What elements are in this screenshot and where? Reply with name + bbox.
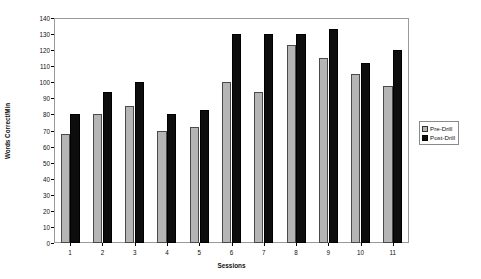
x-axis-tick-mark — [232, 243, 233, 246]
bar-group — [248, 18, 280, 243]
x-axis-tick-mark — [296, 243, 297, 246]
bar-pre-drill — [254, 92, 263, 243]
chart-legend: Pre-Drill Post-Drill — [419, 121, 459, 145]
legend-swatch-post-drill — [422, 135, 428, 141]
x-axis-tick-label: 4 — [165, 249, 169, 256]
bar-group — [54, 18, 86, 243]
y-axis-tick-mark — [51, 50, 54, 51]
x-axis-tick-label: 8 — [294, 249, 298, 256]
bar-group — [86, 18, 118, 243]
legend-label-post-drill: Post-Drill — [430, 133, 455, 142]
bar-group — [151, 18, 183, 243]
x-axis-tick-mark — [393, 243, 394, 246]
bar-post-drill — [103, 92, 112, 243]
bar-group — [215, 18, 247, 243]
y-axis-tick-mark — [51, 66, 54, 67]
legend-swatch-pre-drill — [422, 126, 428, 132]
bar-group — [119, 18, 151, 243]
y-axis-tick-label: 20 — [20, 207, 50, 214]
y-axis-tick-mark — [51, 114, 54, 115]
y-axis-tick-mark — [51, 131, 54, 132]
bar-chart: Words Correct/Min 0102030405060708090100… — [0, 0, 481, 279]
bar-post-drill — [393, 50, 402, 243]
x-axis-tick-mark — [135, 243, 136, 246]
bar-pre-drill — [287, 45, 296, 243]
bar-post-drill — [361, 63, 370, 243]
y-axis-tick-labels: 0102030405060708090100110120130140 — [20, 0, 50, 279]
y-axis-tick-label: 120 — [20, 47, 50, 54]
x-axis-tick-label: 9 — [327, 249, 331, 256]
y-axis-tick-label: 90 — [20, 95, 50, 102]
x-axis-tick-label: 1 — [68, 249, 72, 256]
bar-pre-drill — [61, 134, 70, 243]
y-axis-tick-mark — [51, 227, 54, 228]
bar-pre-drill — [93, 114, 102, 243]
y-axis-tick-label: 80 — [20, 111, 50, 118]
bar-pre-drill — [125, 106, 134, 243]
bar-post-drill — [200, 110, 209, 243]
legend-label-pre-drill: Pre-Drill — [430, 124, 452, 133]
bar-group — [183, 18, 215, 243]
bar-pre-drill — [383, 86, 392, 244]
y-axis-tick-mark — [51, 211, 54, 212]
bar-group — [280, 18, 312, 243]
bar-pre-drill — [222, 82, 231, 243]
x-axis-tick-mark — [70, 243, 71, 246]
bar-pre-drill — [190, 127, 199, 243]
y-axis-tick-label: 40 — [20, 175, 50, 182]
y-axis-tick-mark — [51, 98, 54, 99]
x-axis-title: Sessions — [54, 262, 409, 269]
bar-post-drill — [232, 34, 241, 243]
x-axis-tick-label: 11 — [390, 249, 397, 256]
x-axis-tick-mark — [102, 243, 103, 246]
x-axis-tick-label: 6 — [230, 249, 234, 256]
y-axis-tick-mark — [51, 147, 54, 148]
x-axis-tick-label: 10 — [357, 249, 364, 256]
bar-post-drill — [70, 114, 79, 243]
x-axis-tick-mark — [167, 243, 168, 246]
bar-pre-drill — [157, 131, 166, 244]
legend-item-pre-drill: Pre-Drill — [422, 124, 455, 133]
y-axis-title: Words Correct/Min — [4, 102, 11, 158]
y-axis-tick-label: 70 — [20, 127, 50, 134]
bar-pre-drill — [351, 74, 360, 243]
x-axis-tick-label: 2 — [101, 249, 105, 256]
bar-pre-drill — [319, 58, 328, 243]
bar-post-drill — [135, 82, 144, 243]
x-axis-tick-mark — [361, 243, 362, 246]
bar-group — [377, 18, 409, 243]
bar-group — [344, 18, 376, 243]
bars-layer — [54, 18, 409, 243]
x-axis-tick-label: 5 — [197, 249, 201, 256]
bar-post-drill — [264, 34, 273, 243]
y-axis-tick-mark — [51, 18, 54, 19]
bar-group — [312, 18, 344, 243]
x-axis-tick-mark — [199, 243, 200, 246]
y-axis-tick-mark — [51, 82, 54, 83]
y-axis-tick-mark — [51, 243, 54, 244]
y-axis-tick-label: 0 — [20, 240, 50, 247]
y-axis-tick-label: 60 — [20, 143, 50, 150]
y-axis-tick-label: 110 — [20, 63, 50, 70]
x-axis-tick-label: 3 — [133, 249, 137, 256]
x-axis-tick-label: 7 — [262, 249, 266, 256]
y-axis-tick-mark — [51, 163, 54, 164]
bar-post-drill — [329, 29, 338, 243]
y-axis-title-container: Words Correct/Min — [0, 18, 14, 243]
y-axis-tick-label: 50 — [20, 159, 50, 166]
x-axis-tick-mark — [328, 243, 329, 246]
y-axis-tick-label: 10 — [20, 223, 50, 230]
y-axis-tick-mark — [51, 179, 54, 180]
y-axis-tick-mark — [51, 34, 54, 35]
bar-post-drill — [296, 34, 305, 243]
y-axis-tick-label: 130 — [20, 31, 50, 38]
y-axis-tick-label: 30 — [20, 191, 50, 198]
bar-post-drill — [167, 114, 176, 243]
y-axis-tick-mark — [51, 195, 54, 196]
y-axis-tick-label: 140 — [20, 15, 50, 22]
x-axis-tick-mark — [264, 243, 265, 246]
y-axis-tick-label: 100 — [20, 79, 50, 86]
legend-item-post-drill: Post-Drill — [422, 133, 455, 142]
